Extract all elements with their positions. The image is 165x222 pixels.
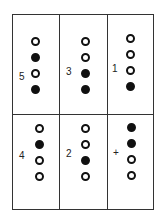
open-dot-icon bbox=[31, 37, 40, 46]
cell-5: 5 bbox=[13, 15, 60, 112]
open-dot-icon bbox=[126, 50, 135, 59]
cell-4: 4 bbox=[13, 114, 60, 211]
open-dot-icon bbox=[81, 124, 90, 133]
open-dot-icon bbox=[126, 66, 135, 75]
open-dot-icon bbox=[35, 124, 44, 133]
filled-dot-icon bbox=[81, 69, 90, 78]
dot-column bbox=[31, 37, 40, 94]
open-dot-icon bbox=[126, 34, 135, 43]
cell-plus: + bbox=[108, 114, 155, 211]
open-dot-icon bbox=[81, 140, 90, 149]
open-dot-icon bbox=[81, 172, 90, 181]
cell-label: + bbox=[113, 148, 119, 158]
open-dot-icon bbox=[127, 155, 136, 164]
filled-dot-icon bbox=[31, 85, 40, 94]
dot-column bbox=[35, 124, 44, 181]
open-dot-icon bbox=[81, 53, 90, 62]
cell-label: 3 bbox=[66, 67, 72, 77]
open-dot-icon bbox=[35, 156, 44, 165]
cell-label: 1 bbox=[112, 64, 118, 74]
cell-label: 5 bbox=[19, 72, 25, 82]
dot-column bbox=[127, 123, 136, 180]
cell-label: 2 bbox=[66, 149, 72, 159]
cell-1: 1 bbox=[108, 15, 155, 112]
open-dot-icon bbox=[81, 37, 90, 46]
open-dot-icon bbox=[127, 171, 136, 180]
dot-column bbox=[126, 34, 135, 91]
dot-column bbox=[81, 37, 90, 94]
filled-dot-icon bbox=[127, 123, 136, 132]
filled-dot-icon bbox=[81, 85, 90, 94]
open-dot-icon bbox=[31, 69, 40, 78]
cell-2: 2 bbox=[60, 114, 107, 211]
filled-dot-icon bbox=[31, 53, 40, 62]
open-dot-icon bbox=[35, 172, 44, 181]
filled-dot-icon bbox=[127, 139, 136, 148]
filled-dot-icon bbox=[126, 82, 135, 91]
filled-dot-icon bbox=[35, 140, 44, 149]
cell-3: 3 bbox=[60, 15, 107, 112]
dot-column bbox=[81, 124, 90, 181]
filled-dot-icon bbox=[81, 156, 90, 165]
cell-label: 4 bbox=[19, 151, 25, 161]
